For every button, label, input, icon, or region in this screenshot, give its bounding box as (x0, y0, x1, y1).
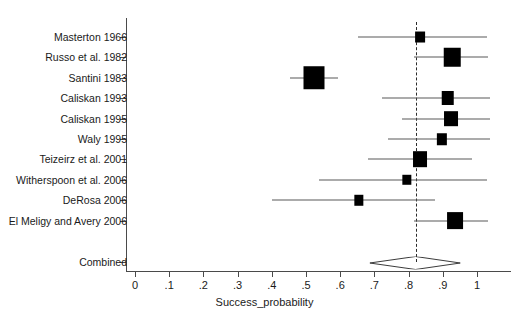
null-reference-line (416, 22, 417, 262)
study-label: Waly 1995 (78, 133, 127, 145)
study-label: Masterton 1966 (54, 31, 127, 43)
x-axis-tick (477, 272, 478, 277)
study-label: Witherspoon et al. 2006 (16, 174, 127, 186)
point-estimate-marker (447, 212, 463, 230)
study-label: Caliskan 1993 (60, 92, 127, 104)
study-label: Santini 1983 (69, 72, 127, 84)
x-axis-tick (238, 272, 239, 277)
x-axis-tick-label: .8 (394, 279, 424, 291)
x-axis-line (126, 271, 511, 272)
point-estimate-marker (442, 91, 455, 105)
x-axis-tick-label: .2 (188, 279, 218, 291)
point-estimate-marker (444, 111, 458, 127)
x-axis-tick (272, 272, 273, 277)
x-axis-tick-label: .9 (428, 279, 458, 291)
x-axis-tick (203, 272, 204, 277)
study-label: Caliskan 1995 (60, 113, 127, 125)
study-label: Russo et al. 1982 (45, 51, 127, 63)
point-estimate-marker (402, 175, 411, 185)
combined-label: Combined (79, 256, 127, 268)
combined-effect-diamond (370, 256, 461, 269)
x-axis-tick-label: .5 (291, 279, 321, 291)
x-axis-tick-label: .4 (257, 279, 287, 291)
forest-plot-figure: Masterton 1966Russo et al. 1982Santini 1… (0, 0, 529, 320)
x-axis-tick-label: .6 (325, 279, 355, 291)
study-label: El Meligy and Avery 2006 (9, 215, 127, 227)
point-estimate-marker (437, 133, 447, 145)
point-estimate-marker (415, 32, 425, 43)
study-label: Teizeirz et al. 2001 (39, 153, 127, 165)
x-axis-tick (340, 272, 341, 277)
point-estimate-marker (444, 48, 461, 67)
x-axis-tick-label: .1 (154, 279, 184, 291)
point-estimate-marker (354, 195, 363, 205)
x-axis-tick (169, 272, 170, 277)
x-axis-tick-label: .3 (223, 279, 253, 291)
confidence-interval-line (382, 98, 490, 99)
x-axis-tick-label: .7 (359, 279, 389, 291)
x-axis-tick-label: 1 (462, 279, 492, 291)
x-axis-tick (443, 272, 444, 277)
x-axis-tick-label: 0 (120, 279, 150, 291)
x-axis-tick (135, 272, 136, 277)
x-axis-tick (409, 272, 410, 277)
x-axis-tick (374, 272, 375, 277)
point-estimate-marker (303, 66, 324, 90)
x-axis-tick (306, 272, 307, 277)
study-label: DeRosa 2006 (63, 194, 127, 206)
x-axis-title: Success_probability (0, 296, 529, 308)
point-estimate-marker (413, 152, 427, 168)
